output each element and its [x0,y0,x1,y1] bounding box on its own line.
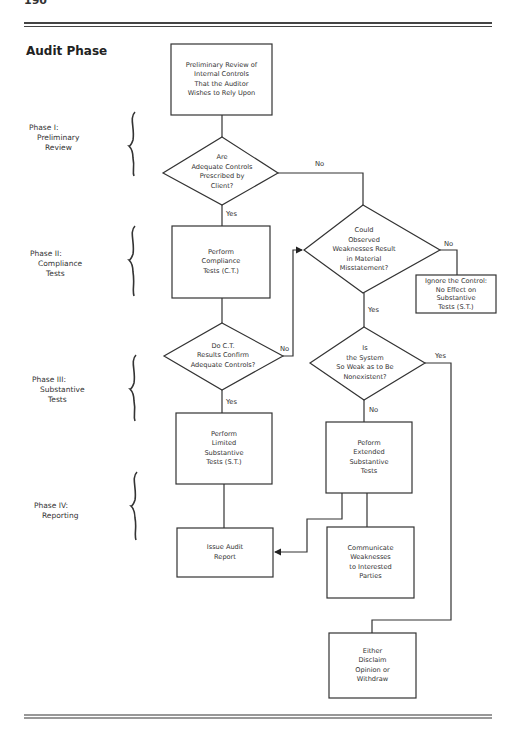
node-extended-text: Peform Extended Substantive Tests [326,422,412,493]
edge-label-adequate-no: No [315,160,324,168]
node-communicate-text: Communicate Weaknesses to Interested Par… [327,527,414,598]
phase-2-brace [129,226,135,296]
edge-label-nonexistent-no: No [369,406,378,414]
phase-4-brace [131,472,137,540]
node-compliance-text: Perform Compliance Tests (C.T.) [172,226,270,298]
edge-label-adequate-yes: Yes [226,210,237,218]
node-start-text: Preliminary Review of Internal Controls … [171,44,272,115]
edge-label-weakness-yes: Yes [368,306,379,314]
node-weakness-text: Could Observed Weaknesses Result in Mate… [320,222,408,278]
node-limited-text: Perform Limited Substantive Tests (S.T.) [176,413,272,484]
phase-3-brace [130,355,136,421]
node-report-text: Issue Audit Report [177,528,273,577]
node-adequate-text: Are Adequate Controls Prescribed by Clie… [180,146,264,198]
edge-label-weakness-no: No [444,240,453,248]
edge-label-nonexistent-yes: Yes [435,352,446,360]
node-disclaim-text: Either Disclaim Opinion or Withdraw [329,633,416,698]
edge-label-confirm-no: No [280,345,289,353]
edge-label-confirm-yes: Yes [226,398,237,406]
node-ignore-text: Ignore the Control: No Effect on Substan… [416,275,496,313]
node-confirm-text: Do C.T. Results Confirm Adequate Control… [180,336,266,376]
phase-1-brace [129,112,135,176]
node-nonexistent-text: Is the System So Weak as to Be Nonexiste… [324,340,406,386]
